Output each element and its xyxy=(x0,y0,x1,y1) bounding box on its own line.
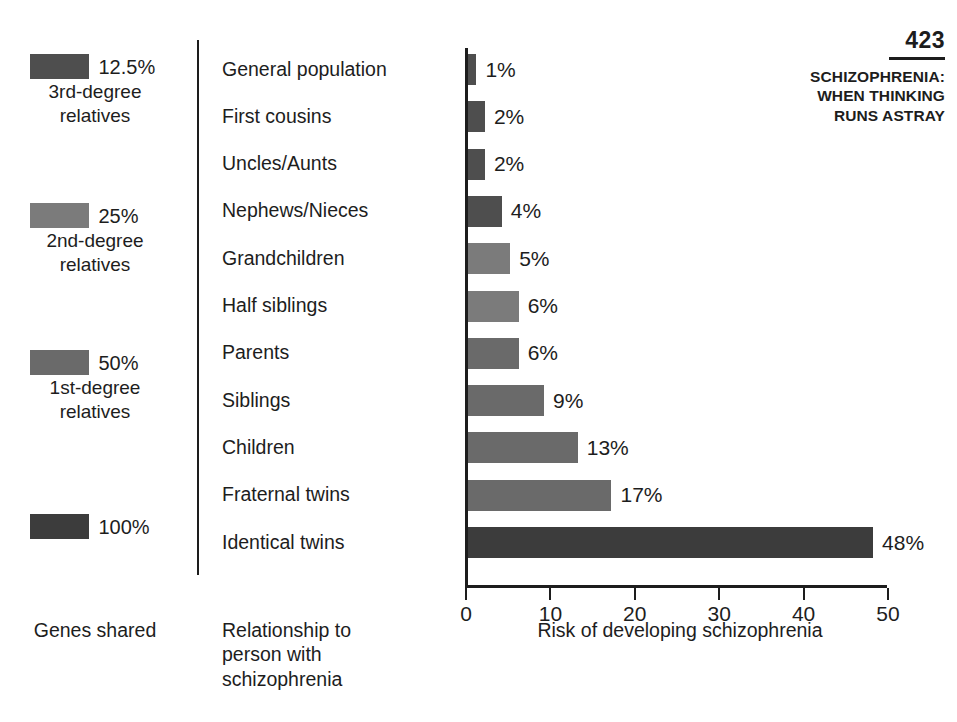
legend-item: 25%2nd-degreerelatives xyxy=(0,203,190,277)
chapter-title-line3: RUNS ASTRAY xyxy=(730,106,945,126)
bar-value-label: 6% xyxy=(528,295,558,316)
category-label: General population xyxy=(222,60,387,80)
legend-item-header: 12.5% xyxy=(0,54,190,79)
legend-group-sublabel: relatives xyxy=(0,254,190,276)
bar xyxy=(468,338,519,369)
bar-value-label: 48% xyxy=(882,532,924,553)
x-axis-tick xyxy=(549,588,551,600)
legend-percent-label: 100% xyxy=(99,517,161,537)
x-axis-tick xyxy=(803,588,805,600)
bar-value-label: 6% xyxy=(528,342,558,363)
bar xyxy=(468,243,510,274)
page-rule xyxy=(889,57,945,60)
chapter-title: SCHIZOPHRENIA: WHEN THINKING RUNS ASTRAY xyxy=(730,67,945,126)
page-header: 423 SCHIZOPHRENIA: WHEN THINKING RUNS AS… xyxy=(730,28,945,126)
category-label: Parents xyxy=(222,343,289,363)
bar xyxy=(468,101,485,132)
chapter-title-line1: SCHIZOPHRENIA: xyxy=(730,67,945,87)
page-number: 423 xyxy=(730,28,945,55)
caption-relationship-line3: schizophrenia xyxy=(222,667,437,691)
legend-item: 100% xyxy=(0,514,190,539)
bar-value-label: 13% xyxy=(587,437,629,458)
bar-value-label: 5% xyxy=(519,248,549,269)
legend-item-header: 100% xyxy=(0,514,190,539)
caption-genes-shared: Genes shared xyxy=(0,618,190,642)
category-label: Nephews/Nieces xyxy=(222,201,368,221)
legend-swatch xyxy=(30,54,89,79)
bar-value-label: 2% xyxy=(494,106,524,127)
legend-item: 12.5%3rd-degreerelatives xyxy=(0,54,190,128)
category-label: Identical twins xyxy=(222,533,344,553)
legend-item-header: 25% xyxy=(0,203,190,228)
legend-group-label: 1st-degree xyxy=(0,377,190,399)
bar xyxy=(468,480,611,511)
bar-value-label: 9% xyxy=(553,390,583,411)
bar xyxy=(468,291,519,322)
chapter-title-line2: WHEN THINKING xyxy=(730,86,945,106)
legend-group-label: 3rd-degree xyxy=(0,81,190,103)
legend-group-sublabel: relatives xyxy=(0,105,190,127)
category-label: Uncles/Aunts xyxy=(222,154,337,174)
bar xyxy=(468,385,544,416)
legend-percent-label: 50% xyxy=(99,353,161,373)
x-axis-tick xyxy=(634,588,636,600)
legend-percent-label: 25% xyxy=(99,206,161,226)
category-label: Children xyxy=(222,438,295,458)
bar-value-label: 2% xyxy=(494,153,524,174)
legend-swatch xyxy=(30,350,89,375)
category-label: Grandchildren xyxy=(222,249,344,269)
bar xyxy=(468,149,485,180)
category-label: Siblings xyxy=(222,391,290,411)
legend-swatch xyxy=(30,203,89,228)
caption-relationship: Relationship to person with schizophreni… xyxy=(222,618,437,691)
category-label: Fraternal twins xyxy=(222,485,350,505)
caption-relationship-line2: person with xyxy=(222,642,437,666)
bar-value-label: 17% xyxy=(620,484,662,505)
schizophrenia-risk-figure: 423 SCHIZOPHRENIA: WHEN THINKING RUNS AS… xyxy=(0,0,957,722)
legend-item: 50%1st-degreerelatives xyxy=(0,350,190,424)
bar xyxy=(468,432,578,463)
bar-value-label: 4% xyxy=(511,200,541,221)
caption-risk-axis: Risk of developing schizophrenia xyxy=(465,618,895,642)
category-label: Half siblings xyxy=(222,296,327,316)
legend-percent-label: 12.5% xyxy=(99,57,161,77)
legend-swatch xyxy=(30,514,89,539)
legend-group-label: 2nd-degree xyxy=(0,230,190,252)
caption-relationship-line1: Relationship to xyxy=(222,618,437,642)
bar xyxy=(468,527,873,558)
bar xyxy=(468,196,502,227)
legend-divider xyxy=(197,40,199,575)
legend-group-sublabel: relatives xyxy=(0,401,190,423)
x-axis-tick xyxy=(465,588,467,600)
x-axis-tick xyxy=(718,588,720,600)
bar-value-label: 1% xyxy=(485,59,515,80)
x-axis-tick xyxy=(887,588,889,600)
bar xyxy=(468,54,476,85)
category-label: First cousins xyxy=(222,107,331,127)
x-axis-line xyxy=(465,585,887,588)
legend-item-header: 50% xyxy=(0,350,190,375)
